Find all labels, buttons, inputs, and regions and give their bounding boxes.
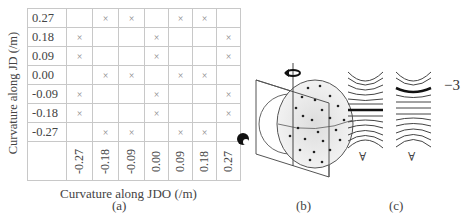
marker-right: ∀ bbox=[408, 150, 415, 165]
rotation-arrow-icon bbox=[284, 69, 300, 77]
panel-c-left-curves bbox=[348, 72, 383, 148]
panel-b-illustration bbox=[0, 0, 471, 224]
caption-c: (c) bbox=[389, 198, 403, 214]
value-label: −3 bbox=[444, 77, 460, 94]
panel-c-right-curves bbox=[396, 72, 431, 147]
eye-icon bbox=[237, 133, 249, 145]
marker-left: ∀ bbox=[359, 150, 366, 165]
caption-b: (b) bbox=[296, 198, 311, 214]
